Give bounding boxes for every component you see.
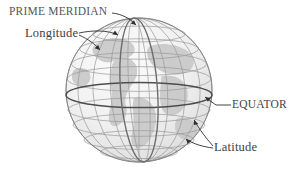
label-prime-meridian: PRIME MERIDIAN — [9, 6, 107, 18]
label-latitude: Latitude — [214, 141, 257, 154]
label-longitude: Longitude — [25, 27, 78, 40]
globe-diagram-figure: PRIME MERIDIAN Longitude EQUATOR Latitud… — [0, 0, 301, 170]
label-equator: EQUATOR — [232, 99, 287, 111]
